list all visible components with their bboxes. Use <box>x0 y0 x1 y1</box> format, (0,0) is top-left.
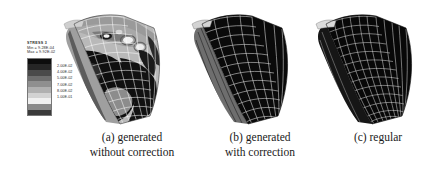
caption-a-index: (a) <box>102 131 115 143</box>
shell-panel-a <box>62 6 192 128</box>
caption-a-line1: generated <box>117 131 162 143</box>
shell-panel-c <box>312 6 442 128</box>
caption-c-index: (c) <box>354 131 367 143</box>
caption-b-line1: generated <box>246 131 291 143</box>
caption-b: (b) generated with correction <box>194 130 326 160</box>
shell-panel-b <box>188 6 318 128</box>
caption-b-line2: with correction <box>194 145 326 160</box>
color-bar-band <box>28 110 51 116</box>
shell-c-svg <box>312 6 442 128</box>
color-bar <box>27 58 52 117</box>
caption-c-line1: regular <box>370 131 403 143</box>
shell-b-svg <box>188 6 318 128</box>
caption-a: (a) generated without correction <box>66 130 198 160</box>
shell-a-svg <box>62 6 192 128</box>
caption-a-line2: without correction <box>66 145 198 160</box>
caption-c: (c) regular <box>318 130 438 145</box>
caption-b-index: (b) <box>230 131 243 143</box>
figure-root: STRESS 3 Min = 9.28E-04 Max = 9.92E-02 2… <box>0 0 448 170</box>
